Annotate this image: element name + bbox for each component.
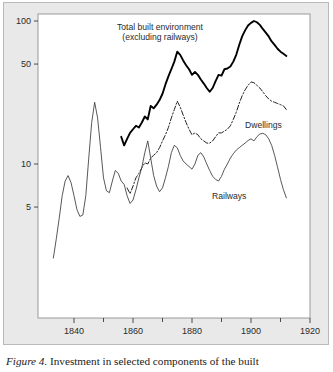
- investment-line-chart: 10050105 18401860188019001920 Total buil…: [0, 0, 333, 372]
- x-tick-label: 1860: [123, 326, 143, 336]
- x-tick-label: 1880: [182, 326, 202, 336]
- x-axis-ticks: 18401860188019001920: [64, 318, 320, 336]
- y-tick-label: 10: [21, 159, 31, 169]
- figure-caption-text: Investment in selected components of the…: [47, 355, 259, 367]
- y-tick-label: 100: [16, 16, 31, 26]
- annotation-total-built-environment-line2: (excluding railways): [122, 32, 198, 42]
- y-tick-label: 5: [26, 202, 31, 212]
- annotation-railways: Railways: [212, 191, 246, 201]
- x-tick-label: 1840: [64, 326, 84, 336]
- y-tick-label: 50: [21, 59, 31, 69]
- annotation-total-built-environment-line1: Total built environment: [117, 22, 204, 32]
- figure-caption-label: Figure 4.: [6, 355, 47, 367]
- annotation-dwellings: Dwellings: [245, 120, 282, 130]
- x-tick-label: 1900: [241, 326, 261, 336]
- chart-area: 10050105 18401860188019001920 Total buil…: [0, 0, 333, 372]
- figure-caption: Figure 4. Investment in selected compone…: [6, 355, 327, 368]
- figure-container: 10050105 18401860188019001920 Total buil…: [0, 0, 333, 372]
- x-tick-label: 1920: [300, 326, 320, 336]
- y-axis-ticks: 10050105: [16, 16, 38, 212]
